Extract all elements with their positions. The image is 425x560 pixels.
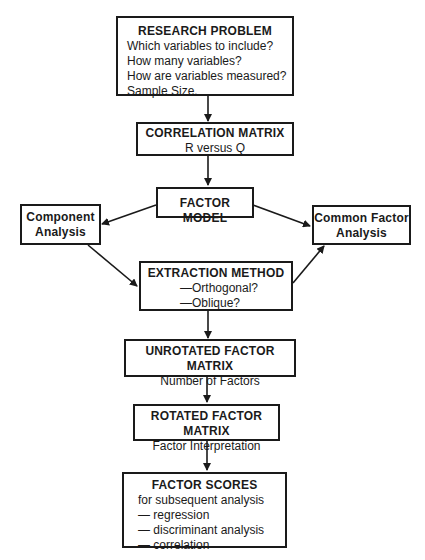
arrow-factor-model-to-component: [102, 205, 156, 224]
node-unrotated-factor-matrix: UNROTATED FACTOR MATRIX Number of Factor…: [124, 339, 296, 377]
node-common-factor-analysis: Common Factor Analysis: [312, 205, 411, 245]
node-line: How are variables measured?: [127, 69, 292, 84]
node-title: RESEARCH PROBLEM: [118, 24, 292, 39]
arrow-extraction-to-common-factor: [293, 246, 324, 283]
node-title: UNROTATED FACTOR MATRIX: [126, 344, 294, 374]
node-line: Factor Interpretation: [135, 439, 278, 454]
arrow-component-to-extraction: [88, 245, 137, 286]
arrow-factor-model-to-common-factor: [253, 205, 310, 226]
node-line: — regression: [138, 508, 285, 523]
node-line: Number of Factors: [126, 374, 294, 389]
node-line: for subsequent analysis: [138, 493, 285, 508]
node-title-line1: Common Factor: [314, 211, 409, 226]
node-correlation-matrix: CORRELATION MATRIX R versus Q: [136, 122, 294, 156]
node-factor-scores: FACTOR SCORES for subsequent analysis — …: [122, 472, 287, 548]
node-line: Which variables to include?: [127, 39, 292, 54]
node-title-line2: Analysis: [314, 226, 409, 241]
node-component-analysis: Component Analysis: [20, 204, 101, 245]
node-factor-model: FACTOR MODEL: [156, 187, 254, 218]
node-title: FACTOR SCORES: [124, 478, 285, 493]
node-line: How many variables?: [127, 54, 292, 69]
node-line: — correlation: [138, 538, 285, 553]
node-line: R versus Q: [138, 141, 292, 156]
node-title: CORRELATION MATRIX: [138, 126, 292, 141]
node-rotated-factor-matrix: ROTATED FACTOR MATRIX Factor Interpretat…: [133, 404, 280, 441]
node-title: EXTRACTION METHOD: [141, 266, 291, 281]
node-title: ROTATED FACTOR MATRIX: [135, 409, 278, 439]
node-title-line1: Component: [22, 210, 99, 225]
node-title: FACTOR MODEL: [158, 196, 252, 226]
node-research-problem: RESEARCH PROBLEM Which variables to incl…: [116, 16, 294, 96]
node-line: Sample Size.: [127, 84, 292, 99]
node-line: —Oblique?: [180, 296, 291, 311]
node-extraction-method: EXTRACTION METHOD —Orthogonal? —Oblique?: [139, 261, 293, 311]
node-title-line2: Analysis: [22, 225, 99, 240]
node-line: — discriminant analysis: [138, 523, 285, 538]
node-line: —Orthogonal?: [180, 281, 291, 296]
